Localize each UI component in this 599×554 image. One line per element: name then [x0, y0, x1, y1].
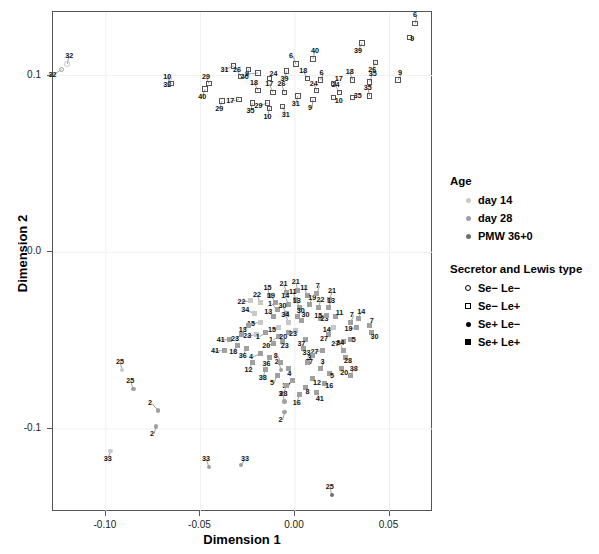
y-axis-tick-label: -0.1 — [7, 422, 41, 433]
data-point — [219, 98, 225, 104]
point-label: 11 — [300, 284, 308, 291]
y-axis-tick-label: 0.1 — [7, 69, 41, 80]
data-point — [263, 367, 268, 372]
legend-type-item: Se+ Le− — [458, 315, 595, 333]
y-axis-tick — [47, 75, 52, 76]
data-point — [255, 88, 261, 94]
data-point — [154, 424, 159, 429]
data-point — [108, 449, 113, 454]
point-label: 35 — [364, 84, 372, 91]
data-point — [310, 56, 316, 62]
point-label: 6 — [320, 69, 324, 76]
point-label: 35 — [369, 70, 377, 77]
data-point — [271, 341, 276, 346]
point-label: 13 — [239, 326, 247, 333]
point-label: 12 — [244, 366, 252, 373]
data-point — [282, 410, 287, 415]
data-point — [280, 104, 286, 110]
point-label: 15 — [263, 284, 271, 291]
point-label: 24 — [269, 70, 277, 77]
point-label: 22 — [238, 298, 246, 305]
legend-item-label: Se− Le+ — [478, 300, 520, 312]
data-point — [331, 325, 336, 330]
x-axis-tick-label: -0.05 — [176, 519, 222, 530]
point-label: 18 — [346, 68, 354, 75]
data-point — [314, 88, 320, 94]
point-label: 29 — [255, 102, 263, 109]
point-label: 24 — [331, 81, 339, 88]
legend-marker-icon — [458, 285, 478, 291]
point-label: 11 — [289, 288, 297, 295]
plot-area: 3232326939264063993140262418617183592424… — [52, 11, 432, 511]
data-point — [279, 368, 284, 373]
x-axis-tick — [294, 511, 295, 516]
point-label: 8 — [305, 388, 309, 395]
x-axis-title: Dimension 1 — [0, 532, 484, 547]
data-point — [258, 351, 263, 356]
point-label: 33 — [241, 455, 249, 462]
sq-fill-icon — [465, 339, 471, 345]
legend-age-item: PMW 36+0 — [458, 227, 595, 245]
point-label: 13 — [327, 297, 335, 304]
point-label: 30 — [278, 302, 286, 309]
point-label: 17 — [265, 80, 273, 87]
point-label: 25 — [126, 377, 134, 384]
legend-type-item: Se+ Le+ — [458, 333, 595, 351]
legend-item-label: Se− Le− — [478, 282, 520, 294]
data-point — [267, 106, 273, 112]
point-label: 28 — [279, 390, 287, 397]
data-point — [278, 360, 283, 365]
sq-open-icon — [465, 303, 471, 309]
point-label: 40 — [311, 47, 319, 54]
point-label: 10 — [163, 73, 171, 80]
legend-age-items: day 14day 28PMW 36+0 — [450, 191, 595, 245]
point-label: 27 — [320, 335, 328, 342]
data-point — [120, 368, 125, 373]
point-label: 5 — [270, 379, 274, 386]
point-label: 41 — [211, 347, 219, 354]
data-point — [310, 97, 316, 103]
data-point — [326, 305, 331, 310]
y-axis-title: Dimension 2 — [15, 144, 30, 364]
legend-spacer — [450, 245, 595, 263]
point-label: 2 — [279, 416, 283, 423]
point-label: 34 — [336, 339, 344, 346]
data-point — [258, 300, 263, 305]
point-label: 41 — [316, 395, 324, 402]
point-label: 3 — [321, 358, 325, 365]
data-point — [316, 305, 321, 310]
data-point — [59, 67, 65, 73]
legend-marker-icon — [458, 234, 478, 239]
point-label: 10 — [263, 113, 271, 120]
data-point — [248, 298, 253, 303]
x-axis-tick — [199, 511, 200, 516]
point-label: 19 — [267, 292, 275, 299]
data-point — [168, 81, 174, 87]
point-label: 35 — [246, 107, 254, 114]
point-label: 7 — [350, 311, 354, 318]
point-label: 23 — [281, 342, 289, 349]
point-label: 16 — [325, 382, 333, 389]
data-point — [131, 387, 136, 392]
point-label: 18 — [250, 79, 258, 86]
y-axis-tick — [47, 251, 52, 252]
circ-fill-icon — [466, 216, 471, 221]
data-point — [395, 77, 401, 83]
point-label: 2 — [148, 399, 152, 406]
point-label: 13 — [264, 308, 272, 315]
legend-marker-icon — [458, 339, 478, 345]
point-label: 39 — [354, 47, 362, 54]
data-point — [258, 320, 263, 325]
data-point — [286, 320, 291, 325]
data-point — [284, 68, 290, 74]
point-label: 33 — [302, 349, 310, 356]
data-point — [222, 348, 227, 353]
point-label: 18 — [229, 348, 237, 355]
point-label: 16 — [293, 399, 301, 406]
data-point — [246, 323, 251, 328]
point-label: 21 — [328, 287, 336, 294]
legend-age-item: day 14 — [458, 191, 595, 209]
data-point — [324, 313, 329, 318]
legend-age-item: day 28 — [458, 209, 595, 227]
point-label: 31 — [282, 111, 290, 118]
